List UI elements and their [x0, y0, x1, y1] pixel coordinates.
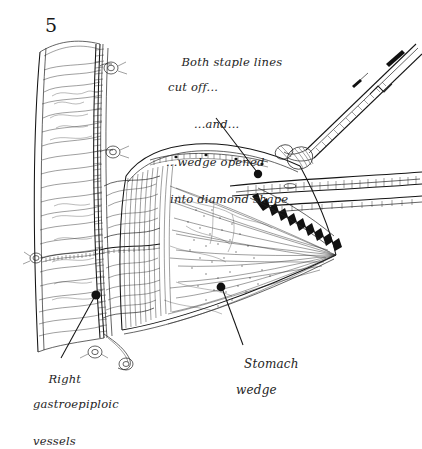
- staple-note-line-2: cut off...: [166, 81, 288, 93]
- vessel-ties: [23, 62, 129, 358]
- figure-number: 5: [45, 14, 57, 36]
- gastric-tube-left: [34, 41, 112, 352]
- annotation-vessels-label: Right gastroepiploic vessels: [33, 361, 119, 449]
- vessels-label-line-3: vessels: [33, 435, 119, 447]
- staple-note-line-4: ...wedge opened: [166, 156, 288, 168]
- vessels-label-line-1: Right: [48, 372, 81, 386]
- annotation-staple-note: Both staple lines cut off... ...and... .…: [166, 44, 288, 230]
- leader-wedge-label: [217, 283, 243, 345]
- wedge-label-line-1: Stomach: [244, 357, 299, 371]
- annotation-wedge-label: Stomach wedge: [228, 345, 299, 423]
- vessels-label-line-2: gastroepiploic: [33, 398, 119, 410]
- leader-vessels-label: [61, 290, 101, 358]
- staple-note-line-1: Both staple lines: [181, 55, 282, 69]
- surgical-clamp-diagonal: [273, 44, 422, 172]
- wedge-label-line-2: wedge: [228, 384, 299, 397]
- staple-note-line-5: into diamond shape: [166, 193, 288, 205]
- staple-note-line-3: ...and...: [166, 118, 288, 130]
